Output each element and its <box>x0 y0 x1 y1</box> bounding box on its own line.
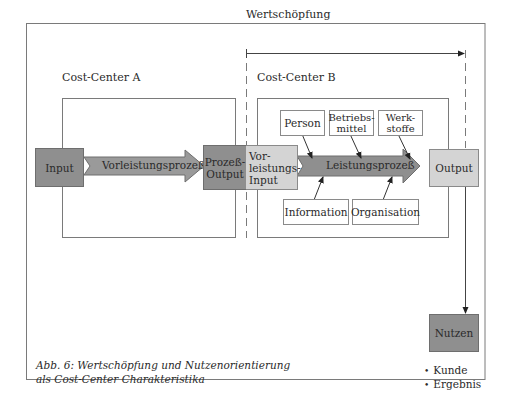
main-process-label: Leistungsprozeß <box>326 159 415 172</box>
cost-center-b-label: Cost-Center B <box>257 71 336 84</box>
process-output-box: Prozeß- Output <box>203 145 247 190</box>
input-label: Input <box>45 162 74 174</box>
resource-betriebsmittel: Betriebs- mittel <box>329 110 374 136</box>
resource-person: Person <box>280 110 325 136</box>
resource-werkstoffe: Werk- stoffe <box>378 110 423 136</box>
organisation-arrow <box>383 177 392 200</box>
benefit-box: Nutzen <box>429 314 479 352</box>
resource-person-label: Person <box>284 117 320 129</box>
input-box: Input <box>35 148 84 187</box>
value-creation-label: Wertschöpfung <box>246 8 330 21</box>
pre-input-box: Vor- leistungs- Input <box>246 145 298 190</box>
caption-line-1: Abb. 6: Wertschöpfung und Nutzenorientie… <box>36 358 290 372</box>
person-arrow <box>302 134 312 158</box>
pre-process-label: Vorleistungsprozeß <box>102 159 205 172</box>
art <box>0 0 512 419</box>
caption-line-2: als Cost-Center Charakteristika <box>36 372 290 386</box>
benefit-label: Nutzen <box>435 327 474 339</box>
betriebsmittel-arrow <box>350 134 361 158</box>
benefit-item: Ergebnis <box>424 378 481 392</box>
resource-betriebsmittel-label: Betriebs- mittel <box>328 112 374 134</box>
output-label: Output <box>435 162 472 174</box>
process-output-label: Prozeß- Output <box>205 156 246 180</box>
pre-input-label: Vor- leistungs- Input <box>249 150 301 186</box>
benefit-list: Kunde Ergebnis <box>424 364 481 392</box>
resource-organisation-label: Organisation <box>351 206 420 218</box>
resource-organisation: Organisation <box>352 199 419 225</box>
resource-werkstoffe-label: Werk- stoffe <box>386 112 415 134</box>
benefit-item: Kunde <box>424 364 481 378</box>
information-arrow <box>314 177 323 200</box>
resource-information-label: Information <box>284 206 347 218</box>
cost-center-a-label: Cost-Center A <box>62 71 140 84</box>
output-box: Output <box>429 149 479 187</box>
resource-information: Information <box>283 199 349 225</box>
figure-caption: Abb. 6: Wertschöpfung und Nutzenorientie… <box>36 358 290 386</box>
